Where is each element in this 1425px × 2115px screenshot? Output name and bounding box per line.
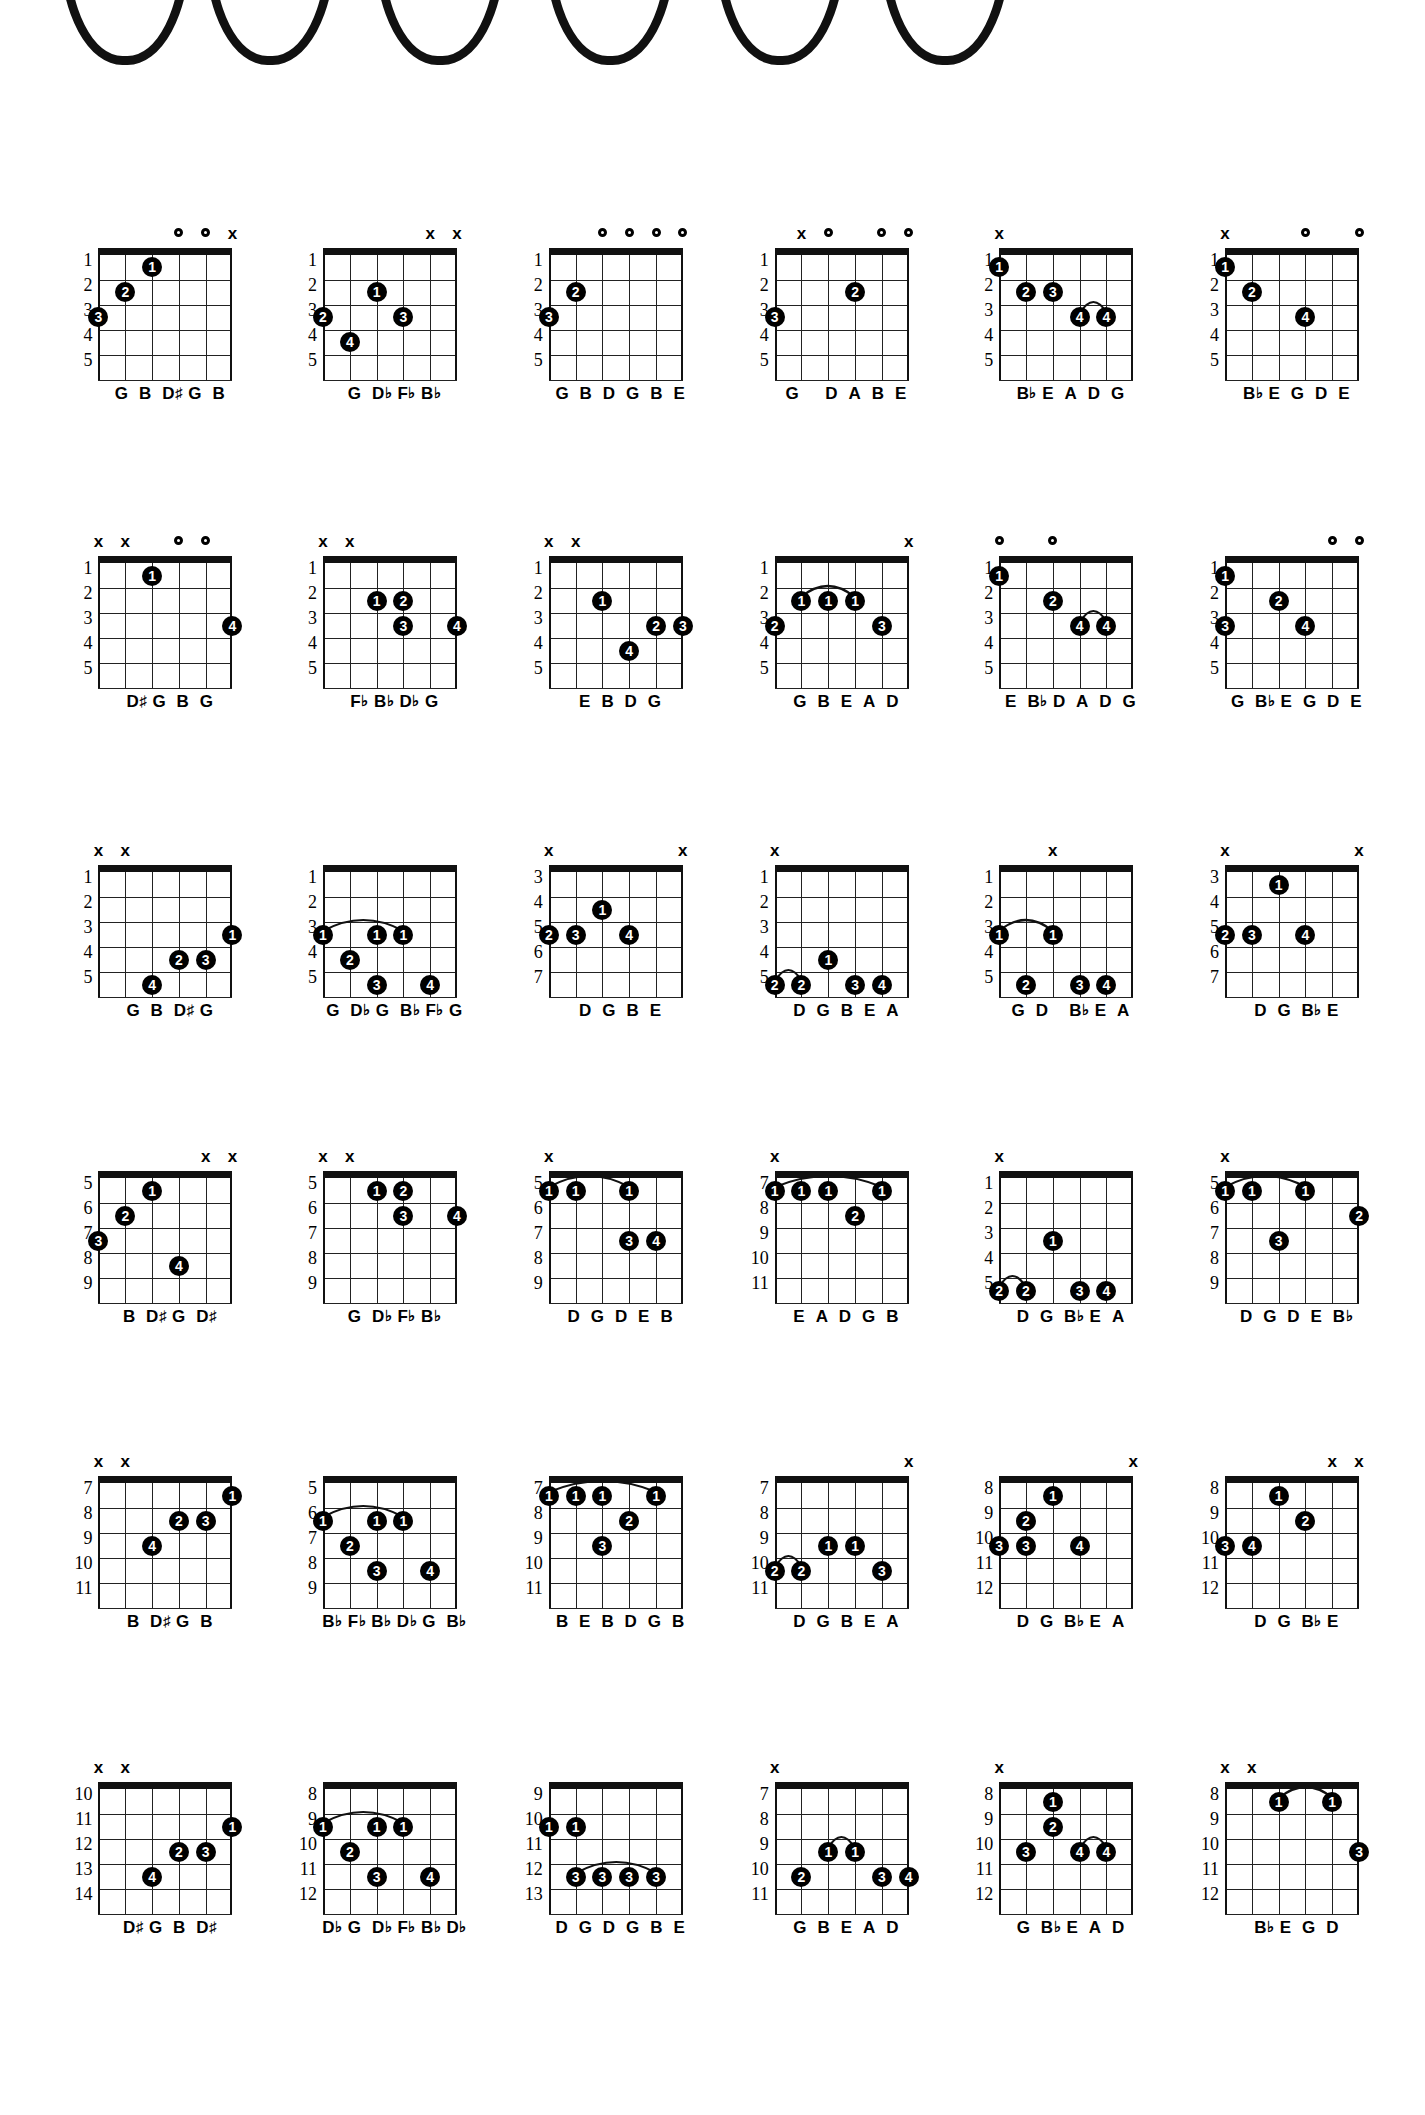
finger-dot[interactable]: 1 [791,1181,811,1201]
finger-dot[interactable]: 3 [539,307,559,327]
finger-dot[interactable]: 1 [989,566,1009,586]
finger-dot[interactable]: 1 [1043,1486,1063,1506]
finger-dot[interactable]: 1 [367,282,387,302]
chord-diagram[interactable]: 10111213141234D♯ G B D♯ [60,1760,265,1938]
finger-dot[interactable]: 2 [646,616,666,636]
finger-dot[interactable]: 2 [989,1281,1009,1301]
finger-dot[interactable]: 4 [222,616,242,636]
finger-dot[interactable]: 3 [1043,282,1063,302]
finger-dot[interactable]: 3 [646,1867,666,1887]
finger-dot[interactable]: 2 [791,1867,811,1887]
finger-dot[interactable]: 1 [845,1842,865,1862]
finger-dot[interactable]: 3 [393,307,413,327]
finger-dot[interactable]: 1 [1269,875,1289,895]
finger-dot[interactable]: 1 [313,925,333,945]
chord-diagram[interactable]: 345671234D G B♭ E [1187,843,1392,1021]
finger-dot[interactable]: 3 [1016,1536,1036,1556]
finger-dot[interactable]: 1 [845,1536,865,1556]
finger-dot[interactable]: 1 [539,1486,559,1506]
chord-diagram[interactable]: 123451234F♭ B♭ D♭ G [285,534,490,712]
finger-dot[interactable]: 2 [1295,1511,1315,1531]
finger-dot[interactable]: 4 [899,1867,919,1887]
finger-dot[interactable]: 3 [393,1206,413,1226]
chord-diagram[interactable]: 123451234G D♭ F♭ B♭ [285,226,490,404]
finger-dot[interactable]: 4 [1295,616,1315,636]
finger-dot[interactable]: 4 [1295,925,1315,945]
chord-diagram[interactable]: 123451234G B♭ E G D E [1187,534,1392,712]
finger-dot[interactable]: 1 [222,925,242,945]
finger-dot[interactable]: 3 [1215,1536,1235,1556]
chord-diagram[interactable]: 1234512344B♭ E A D G [961,226,1166,404]
finger-dot[interactable]: 3 [1016,1842,1036,1862]
chord-diagram[interactable]: 789101111223D G B E A [737,1454,942,1632]
finger-dot[interactable]: 1 [142,566,162,586]
finger-dot[interactable]: 3 [619,1867,639,1887]
finger-dot[interactable]: 1 [872,1181,892,1201]
finger-dot[interactable]: 1 [1269,1792,1289,1812]
chord-diagram[interactable]: 12345111234G D♭ G B♭ F♭ G [285,843,490,1021]
finger-dot[interactable]: 2 [765,616,785,636]
finger-dot[interactable]: 2 [1043,591,1063,611]
finger-dot[interactable]: 3 [1070,975,1090,995]
finger-dot[interactable]: 3 [845,975,865,995]
finger-dot[interactable]: 3 [592,1536,612,1556]
finger-dot[interactable]: 4 [142,975,162,995]
finger-dot[interactable]: 1 [566,1817,586,1837]
finger-dot[interactable]: 1 [1215,566,1235,586]
finger-dot[interactable]: 1 [539,1817,559,1837]
finger-dot[interactable]: 1 [539,1181,559,1201]
finger-dot[interactable]: 3 [393,616,413,636]
finger-dot[interactable]: 2 [169,1842,189,1862]
finger-dot[interactable]: 2 [169,950,189,970]
chord-diagram[interactable]: 910111213113333D G D G B E [511,1760,716,1938]
finger-dot[interactable]: 2 [1016,975,1036,995]
finger-dot[interactable]: 1 [592,900,612,920]
chord-diagram[interactable]: 789101111112E A D G B [737,1149,942,1327]
finger-dot[interactable]: 1 [1215,257,1235,277]
chord-diagram[interactable]: 789101111234G B E A D [737,1760,942,1938]
finger-dot[interactable]: 2 [1016,1281,1036,1301]
finger-dot[interactable]: 1 [142,1181,162,1201]
finger-dot[interactable]: 2 [1016,282,1036,302]
finger-dot[interactable]: 1 [619,1181,639,1201]
finger-dot[interactable]: 3 [196,1842,216,1862]
finger-dot[interactable]: 4 [1070,307,1090,327]
chord-diagram[interactable]: 89101112113B♭ E G D [1187,1760,1392,1938]
chord-diagram[interactable]: 12345123G B D♯ G B [60,226,265,404]
finger-dot[interactable]: 3 [1269,1231,1289,1251]
finger-dot[interactable]: 2 [169,1511,189,1531]
finger-dot[interactable]: 1 [989,257,1009,277]
finger-dot[interactable]: 4 [447,1206,467,1226]
finger-dot[interactable]: 4 [340,332,360,352]
finger-dot[interactable]: 1 [367,591,387,611]
finger-dot[interactable]: 1 [313,1511,333,1531]
finger-dot[interactable]: 2 [313,307,333,327]
chord-diagram[interactable]: 8910111212344G B♭ E A D [961,1760,1166,1938]
finger-dot[interactable]: 1 [367,1511,387,1531]
finger-dot[interactable]: 1 [989,925,1009,945]
finger-dot[interactable]: 3 [1215,616,1235,636]
finger-dot[interactable]: 1 [1215,1181,1235,1201]
chord-diagram[interactable]: 1234523G D A B E [737,226,942,404]
finger-dot[interactable]: 4 [1070,616,1090,636]
finger-dot[interactable]: 4 [619,641,639,661]
chord-diagram[interactable]: 89101112111234D♭ G D♭ F♭ B♭ D♭ [285,1760,490,1938]
finger-dot[interactable]: 4 [1242,1536,1262,1556]
finger-dot[interactable]: 1 [313,1817,333,1837]
finger-dot[interactable]: 3 [367,1867,387,1887]
finger-dot[interactable]: 3 [872,1867,892,1887]
finger-dot[interactable]: 1 [367,925,387,945]
finger-dot[interactable]: 2 [1242,282,1262,302]
finger-dot[interactable]: 1 [1269,1486,1289,1506]
finger-dot[interactable]: 4 [1096,307,1116,327]
finger-dot[interactable]: 1 [367,1817,387,1837]
finger-dot[interactable]: 4 [1070,1842,1090,1862]
finger-dot[interactable]: 1 [566,1486,586,1506]
finger-dot[interactable]: 3 [872,616,892,636]
finger-dot[interactable]: 4 [420,1561,440,1581]
chord-diagram[interactable]: 891011121234D G B♭ E [1187,1454,1392,1632]
finger-dot[interactable]: 3 [1070,1281,1090,1301]
finger-dot[interactable]: 2 [845,282,865,302]
finger-dot[interactable]: 3 [1242,925,1262,945]
finger-dot[interactable]: 3 [872,1561,892,1581]
